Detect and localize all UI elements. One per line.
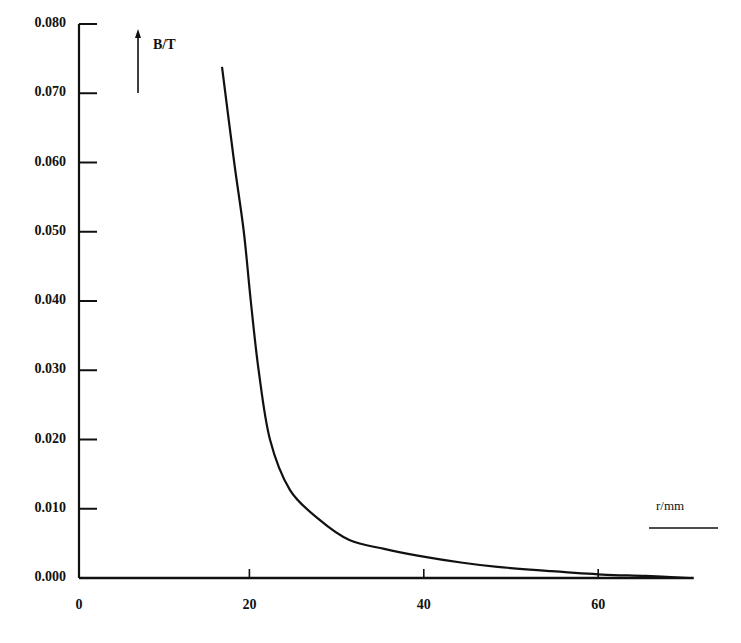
arrow-head-icon xyxy=(135,29,141,38)
y-tick-label: 0.030 xyxy=(4,361,66,377)
axes xyxy=(79,24,718,578)
data-curve xyxy=(222,67,689,578)
y-tick-label: 0.060 xyxy=(4,154,66,170)
y-tick-label: 0.040 xyxy=(4,292,66,308)
y-tick-label: 0.000 xyxy=(4,569,66,585)
y-axis-title: B/T xyxy=(153,37,176,53)
y-tick-label: 0.010 xyxy=(4,500,66,516)
x-tick-label: 40 xyxy=(404,597,444,613)
y-tick-label: 0.020 xyxy=(4,431,66,447)
y-tick-label: 0.070 xyxy=(4,84,66,100)
y-tick-label: 0.080 xyxy=(4,15,66,31)
chart-canvas xyxy=(0,0,741,643)
x-axis-title: r/mm xyxy=(656,498,684,514)
x-tick-label: 60 xyxy=(578,597,618,613)
x-tick-label: 20 xyxy=(229,597,269,613)
y-tick-label: 0.050 xyxy=(4,223,66,239)
x-tick-label: 0 xyxy=(59,597,99,613)
